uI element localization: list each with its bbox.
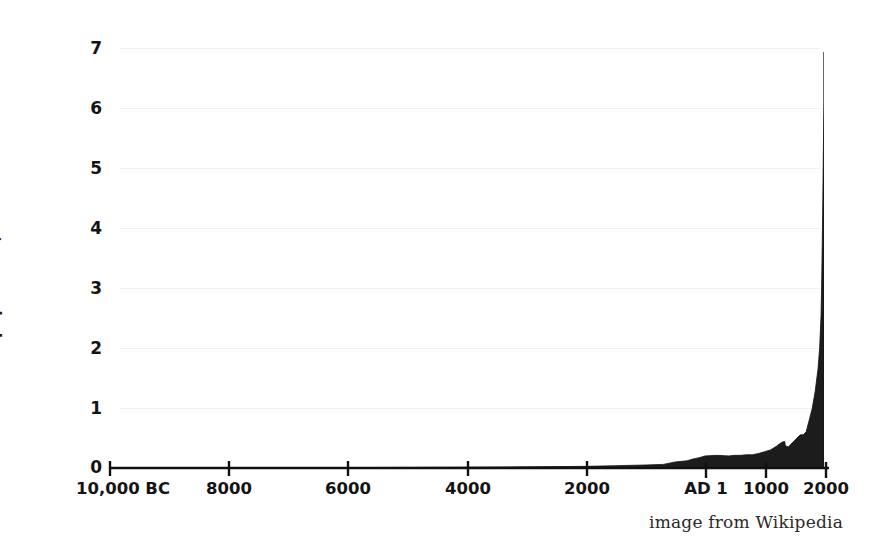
- x-tick-2000-bc: 2000: [564, 481, 610, 498]
- population-area-series: [110, 40, 824, 468]
- x-tick-4000: 4000: [445, 481, 491, 498]
- plot-area: [110, 40, 824, 468]
- x-tick-2000-ad: 2000: [803, 481, 849, 498]
- y-tick-0: 0: [62, 459, 102, 476]
- y-tick-6: 6: [62, 100, 102, 117]
- world-population-chart: World population, billions 7 6 5 4 3 2 1…: [0, 0, 877, 560]
- x-tick-8000: 8000: [206, 481, 252, 498]
- x-tick-ad-1: AD 1: [684, 481, 728, 498]
- x-tick-1000: 1000: [743, 481, 789, 498]
- x-tick-10000-bc: 10,000 BC: [76, 481, 170, 498]
- y-tick-1: 1: [62, 400, 102, 417]
- y-tick-2: 2: [62, 340, 102, 357]
- y-tick-5: 5: [62, 160, 102, 177]
- y-tick-4: 4: [62, 220, 102, 237]
- x-axis-tick-labels: 10,000 BC 8000 6000 4000 2000 AD 1 1000 …: [0, 481, 877, 507]
- population-curve: [110, 52, 824, 468]
- y-tick-3: 3: [62, 280, 102, 297]
- y-axis-title-label: World population, billions: [0, 163, 3, 396]
- y-axis-tick-labels: 7 6 5 4 3 2 1 0: [60, 0, 102, 560]
- y-tick-7: 7: [62, 40, 102, 57]
- x-tick-6000: 6000: [325, 481, 371, 498]
- x-axis-ticks: [110, 461, 826, 478]
- source-credit: image from Wikipedia: [649, 512, 843, 532]
